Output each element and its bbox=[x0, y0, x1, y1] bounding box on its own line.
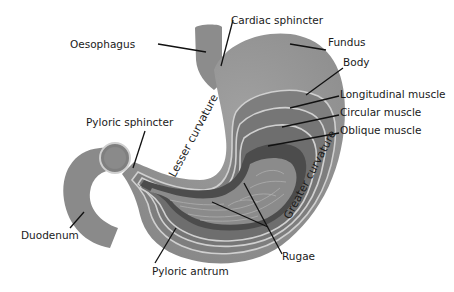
stomach-diagram: Oesophagus Cardiac sphincter Fundus Body… bbox=[0, 0, 454, 292]
label-lesser-curvature: Lesser curvature bbox=[166, 92, 221, 180]
label-fundus: Fundus bbox=[328, 36, 366, 48]
label-duodenum: Duodenum bbox=[21, 229, 79, 241]
label-pyloric-antrum: Pyloric antrum bbox=[152, 265, 229, 277]
label-pyloric-sphincter: Pyloric sphincter bbox=[86, 116, 174, 128]
label-circular-muscle: Circular muscle bbox=[340, 106, 421, 118]
label-oesophagus: Oesophagus bbox=[70, 38, 135, 50]
label-rugae: Rugae bbox=[282, 250, 315, 262]
label-body: Body bbox=[343, 56, 370, 68]
label-cardiac-sphincter: Cardiac sphincter bbox=[231, 14, 324, 26]
label-oblique-muscle: Oblique muscle bbox=[340, 124, 421, 136]
label-longitudinal-muscle: Longitudinal muscle bbox=[340, 88, 446, 100]
pyloric-sphincter-shape bbox=[100, 143, 130, 173]
